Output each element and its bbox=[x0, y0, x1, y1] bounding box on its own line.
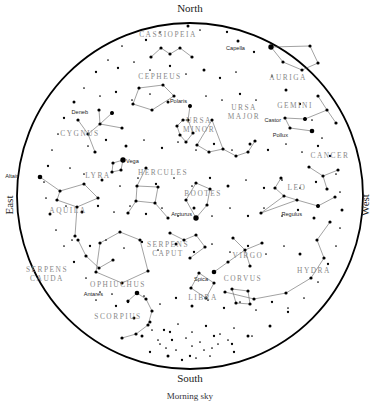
star-name-label: Arcturus bbox=[171, 211, 192, 217]
named-star bbox=[316, 204, 320, 208]
field-star bbox=[149, 93, 151, 95]
field-star bbox=[149, 321, 152, 324]
field-star bbox=[169, 331, 171, 333]
constellation-star bbox=[246, 150, 249, 153]
constellation-label: SERPENSCAPUT bbox=[147, 240, 189, 258]
constellation-label: CANCER bbox=[311, 151, 350, 160]
field-star bbox=[287, 307, 289, 309]
constellation-star bbox=[97, 266, 100, 269]
constellation-star bbox=[111, 161, 114, 164]
field-star bbox=[161, 147, 163, 149]
field-star bbox=[235, 71, 237, 73]
field-star bbox=[321, 137, 323, 139]
field-star bbox=[315, 181, 317, 183]
field-star bbox=[233, 327, 235, 329]
constellation-star bbox=[181, 118, 184, 121]
constellation-star bbox=[226, 260, 229, 263]
constellation-star bbox=[334, 121, 337, 124]
field-star bbox=[187, 25, 190, 28]
constellation-line bbox=[197, 145, 209, 152]
field-star bbox=[219, 77, 221, 79]
field-star bbox=[317, 281, 319, 283]
field-star bbox=[193, 251, 195, 253]
field-star bbox=[247, 335, 250, 338]
field-star bbox=[203, 349, 205, 351]
field-star bbox=[237, 40, 240, 43]
constellation-star bbox=[315, 238, 318, 241]
named-star bbox=[310, 129, 315, 134]
field-star bbox=[123, 247, 125, 249]
constellation-label: OPHIUCHUS bbox=[90, 280, 146, 289]
constellation-star bbox=[120, 336, 123, 339]
field-star bbox=[303, 297, 305, 299]
constellation-line bbox=[286, 278, 311, 293]
constellation-line bbox=[327, 110, 336, 123]
field-star bbox=[253, 51, 255, 53]
constellation-line bbox=[100, 124, 122, 128]
field-star bbox=[145, 213, 147, 215]
constellation-star bbox=[295, 198, 298, 201]
field-star bbox=[143, 139, 145, 141]
field-star bbox=[151, 329, 153, 331]
constellation-line bbox=[122, 334, 136, 338]
constellation-star bbox=[223, 290, 226, 293]
field-star bbox=[233, 351, 235, 353]
constellation-line bbox=[225, 292, 254, 299]
constellation-line bbox=[275, 188, 284, 196]
field-star bbox=[159, 303, 161, 305]
constellation-star bbox=[189, 286, 192, 289]
constellation-label: BOOTES bbox=[184, 189, 222, 198]
field-star bbox=[185, 337, 187, 339]
field-star bbox=[73, 261, 75, 263]
field-star bbox=[285, 143, 287, 145]
constellation-star bbox=[146, 323, 149, 326]
constellation-line bbox=[275, 178, 281, 188]
cardinal-east: East bbox=[3, 196, 15, 215]
constellation-star bbox=[248, 302, 251, 305]
constellation-star bbox=[309, 276, 312, 279]
constellation-star bbox=[55, 198, 58, 201]
field-star bbox=[83, 87, 85, 89]
constellation-star bbox=[230, 287, 233, 290]
field-star bbox=[189, 355, 191, 357]
field-star bbox=[339, 191, 341, 193]
constellation-star bbox=[316, 61, 319, 64]
constellation-line bbox=[254, 293, 286, 299]
field-star bbox=[95, 71, 97, 73]
constellation-star bbox=[82, 182, 85, 185]
constellation-star bbox=[146, 269, 149, 272]
field-star bbox=[339, 227, 341, 229]
constellation-star bbox=[253, 139, 256, 142]
constellation-star bbox=[126, 299, 129, 302]
field-star bbox=[301, 151, 303, 153]
star-name-label: Antares bbox=[84, 291, 103, 297]
constellation-star bbox=[153, 201, 156, 204]
constellation-label: URSAMAJOR bbox=[228, 103, 261, 121]
constellation-star bbox=[134, 332, 137, 335]
field-star bbox=[231, 343, 233, 345]
constellation-line bbox=[232, 289, 248, 291]
constellation-line bbox=[146, 299, 152, 311]
constellation-line bbox=[155, 187, 158, 203]
constellation-star bbox=[144, 297, 147, 300]
sky-map-svg: CASSIOPEIACEPHEUSAURIGAGEMINIURSAMAJORUR… bbox=[0, 0, 381, 403]
constellation-star bbox=[119, 168, 122, 171]
constellation-star bbox=[138, 238, 141, 241]
constellation-line bbox=[236, 152, 248, 156]
constellation-star bbox=[96, 196, 99, 199]
constellation-star bbox=[259, 211, 262, 214]
field-star bbox=[97, 205, 99, 207]
constellation-star bbox=[73, 234, 76, 237]
constellation-star bbox=[212, 281, 215, 284]
field-star bbox=[145, 39, 147, 41]
constellation-star bbox=[195, 143, 198, 146]
field-star bbox=[221, 99, 223, 101]
field-star bbox=[335, 245, 337, 247]
constellation-star bbox=[76, 118, 79, 121]
named-star bbox=[188, 104, 192, 108]
field-star bbox=[217, 343, 219, 345]
constellation-line bbox=[214, 262, 228, 272]
constellation-star bbox=[178, 133, 181, 136]
named-star bbox=[110, 111, 114, 115]
named-star bbox=[268, 44, 273, 49]
